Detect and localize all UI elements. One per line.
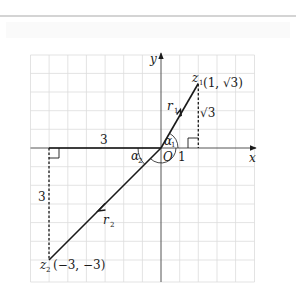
alpha2-subscript: 2	[138, 157, 142, 165]
r1-subscript: 1	[174, 107, 178, 115]
r2-subscript: 2	[110, 221, 114, 229]
arrow-r2-icon	[98, 204, 106, 212]
z2-coords: (−3, −3)	[53, 258, 105, 272]
length-sqrt3-label: √3	[200, 106, 215, 120]
complex-plane-diagram: y x O 1 z 1 (1, √3) z 2 (−3, −3) r 1 r 2…	[0, 0, 296, 300]
unit-tick-label: 1	[178, 150, 186, 164]
right-angle-marker-z1	[188, 138, 198, 148]
z1-coords: (1, √3)	[203, 76, 243, 90]
origin-label: O	[163, 150, 173, 164]
y-axis-label: y	[149, 52, 157, 66]
z2-subscript: 2	[46, 266, 50, 274]
length-3-vertical-label: 3	[38, 190, 46, 204]
x-axis-label: x	[249, 151, 256, 165]
r2-label: r	[103, 213, 110, 227]
z1-label: z	[191, 71, 199, 85]
length-3-horizontal-label: 3	[100, 133, 108, 147]
right-angle-marker-z2	[49, 148, 59, 158]
alpha1-subscript: 1	[171, 141, 175, 149]
